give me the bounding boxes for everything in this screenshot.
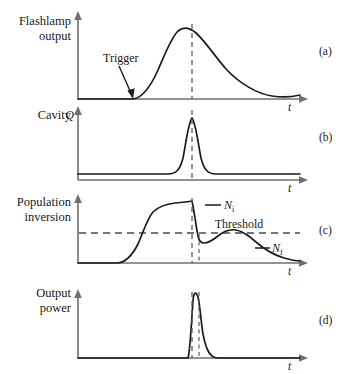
panel-b-tag: (b) [319, 131, 333, 144]
y-axis-arrowhead-panel-d [74, 289, 82, 298]
y-axis-arrowhead-panel-c [74, 194, 82, 203]
q-switch-timing-figure: Trigger Flashlamp output t (a) Cavity Q … [0, 0, 348, 374]
y-axis-arrowhead-panel-b [74, 106, 82, 115]
panel-b-ylabel-symbol: Q [65, 108, 74, 122]
nf-subscript: f [280, 247, 283, 257]
x-axis-arrowhead-panel-b [299, 176, 308, 184]
curve-cavity-q [78, 118, 300, 174]
panel-d-tag: (d) [319, 314, 333, 327]
trigger-annotation-label: Trigger [103, 51, 139, 65]
panel-a-ylabel-line2: output [39, 29, 71, 43]
panel-c-tag: (c) [319, 224, 332, 237]
panel-c-ylabel-line2: inversion [24, 210, 71, 224]
panel-cavity-q: Cavity Q t (b) [38, 106, 333, 194]
curve-output-power [78, 293, 300, 358]
panel-population-inversion: Ni Nf Threshold Population inversion t (… [17, 194, 332, 277]
panel-a-ylabel-line1: Flashlamp [19, 14, 71, 28]
trigger-arrowhead [127, 88, 134, 99]
panel-output-power: Output power t (d) [36, 286, 332, 372]
ni-label: Ni [223, 198, 235, 214]
ni-subscript: i [232, 204, 235, 214]
panel-c-ylabel-line1: Population [17, 195, 72, 209]
threshold-label: Threshold [215, 217, 264, 231]
panel-d-ylabel-line2: power [40, 301, 72, 315]
y-axis-arrowhead-panel-a [74, 11, 82, 20]
panel-c-xlabel: t [288, 265, 292, 277]
trigger-annotation-arrow [119, 66, 131, 93]
nf-label: Nf [271, 241, 283, 257]
curve-population-inversion [78, 201, 300, 263]
panel-a-xlabel: t [288, 101, 292, 113]
panel-d-ylabel-line1: Output [36, 286, 71, 300]
panel-flashlamp-output: Trigger Flashlamp output t (a) [19, 11, 332, 113]
panel-a-tag: (a) [319, 45, 332, 58]
panel-d-xlabel: t [288, 360, 292, 372]
x-axis-arrowhead-panel-a [299, 95, 308, 103]
panel-b-xlabel: t [288, 182, 292, 194]
